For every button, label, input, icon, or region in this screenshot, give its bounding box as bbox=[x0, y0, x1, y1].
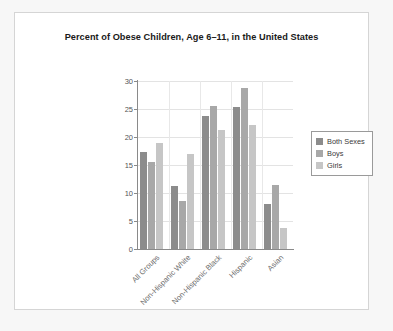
bar-group bbox=[138, 81, 169, 249]
bar bbox=[264, 204, 271, 249]
x-axis-line bbox=[137, 249, 294, 250]
y-tick-label: 30 bbox=[117, 77, 133, 86]
y-tick-label: 10 bbox=[117, 189, 133, 198]
y-tick-mark bbox=[134, 221, 137, 222]
bar bbox=[249, 125, 256, 249]
y-tick-label: 15 bbox=[117, 161, 133, 170]
bar bbox=[233, 107, 240, 249]
y-tick-mark bbox=[134, 81, 137, 82]
bar bbox=[210, 106, 217, 249]
legend-swatch-icon bbox=[316, 138, 323, 145]
y-tick-label: 25 bbox=[117, 105, 133, 114]
x-tick-label: Asian bbox=[266, 253, 286, 273]
bar bbox=[272, 185, 279, 249]
legend-swatch-icon bbox=[316, 150, 323, 157]
legend-label: Boys bbox=[327, 149, 343, 158]
bar bbox=[148, 162, 155, 249]
chart-title: Percent of Obese Children, Age 6–11, in … bbox=[15, 32, 368, 42]
legend-item: Girls bbox=[316, 160, 367, 171]
legend-label: Girls bbox=[327, 161, 342, 170]
y-tick-mark bbox=[134, 109, 137, 110]
bar-group bbox=[169, 81, 200, 249]
figure-card: Percent of Obese Children, Age 6–11, in … bbox=[14, 12, 369, 310]
bar bbox=[171, 186, 178, 249]
x-tick-label: All Groups bbox=[130, 253, 161, 284]
legend-item: Boys bbox=[316, 148, 367, 159]
bar bbox=[218, 130, 225, 249]
bar bbox=[280, 228, 287, 249]
bar bbox=[140, 152, 147, 249]
bar bbox=[241, 88, 248, 249]
plot-area bbox=[138, 81, 293, 249]
legend-item: Both Sexes bbox=[316, 136, 367, 147]
chart-legend: Both SexesBoysGirls bbox=[311, 131, 373, 176]
bar bbox=[202, 116, 209, 249]
y-tick-label: 5 bbox=[117, 217, 133, 226]
x-tick-label: Hispanic bbox=[228, 253, 255, 280]
bar bbox=[187, 154, 194, 249]
legend-swatch-icon bbox=[316, 162, 323, 169]
bar-group bbox=[200, 81, 231, 249]
y-tick-label: 0 bbox=[117, 245, 133, 254]
y-tick-mark bbox=[134, 249, 137, 250]
y-tick-label: 20 bbox=[117, 133, 133, 142]
legend-label: Both Sexes bbox=[327, 137, 365, 146]
bar bbox=[179, 201, 186, 249]
bar-group bbox=[262, 81, 293, 249]
y-tick-mark bbox=[134, 137, 137, 138]
x-axis-category-labels: All GroupsNon-Hispanic WhiteNon-Hispanic… bbox=[138, 251, 298, 321]
y-axis-tick-labels: 051015202530 bbox=[115, 81, 133, 249]
bar-group bbox=[231, 81, 262, 249]
y-tick-mark bbox=[134, 165, 137, 166]
bar bbox=[156, 143, 163, 249]
y-tick-mark bbox=[134, 193, 137, 194]
